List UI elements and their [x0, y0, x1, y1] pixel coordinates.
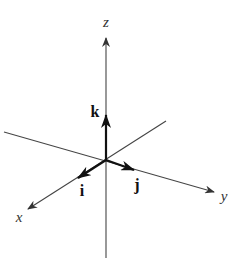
k-vector-label: k	[91, 103, 100, 120]
j-vector-label: j	[133, 176, 139, 194]
z-axis-label: z	[102, 14, 109, 30]
x-axis-label: x	[15, 209, 23, 225]
y-axis-label: y	[219, 188, 228, 204]
labels: z y x k j i	[15, 14, 228, 225]
coordinate-diagram: z y x k j i	[0, 0, 233, 261]
i-vector-arrow	[78, 160, 106, 178]
i-vector-label: i	[80, 182, 85, 199]
j-vector-arrow	[106, 160, 134, 170]
axes	[4, 38, 214, 258]
